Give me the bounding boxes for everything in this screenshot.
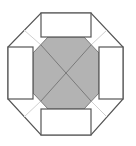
top-rect — [41, 13, 91, 37]
right-rect — [99, 47, 123, 99]
octagon-diagram — [0, 0, 136, 146]
diagram-svg — [0, 0, 136, 146]
left-rect — [8, 47, 33, 99]
bottom-rect — [41, 109, 91, 135]
